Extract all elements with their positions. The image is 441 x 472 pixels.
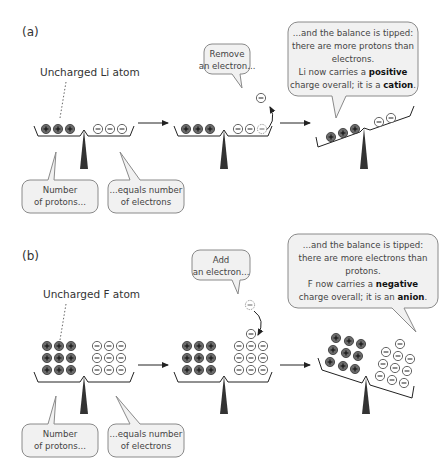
svg-text:of electrons: of electrons [121, 441, 172, 451]
f-atom-label: Uncharged F atom [43, 288, 140, 300]
tipped-scale-anion [318, 333, 415, 414]
svg-text:Remove: Remove [210, 49, 245, 59]
panel-a-label: (a) [22, 25, 39, 39]
svg-text:protons.: protons. [345, 266, 380, 276]
svg-text:F now carries a negative: F now carries a negative [308, 279, 418, 289]
scale-electron-added [174, 329, 272, 414]
ion-formation-diagram: (a) Uncharged Li atom Number of protons.… [0, 0, 441, 472]
svg-text:Li now carries a positive: Li now carries a positive [299, 67, 408, 77]
panel-b: (b) Uncharged F atom Number of protons..… [22, 234, 438, 457]
svg-text:there are more electrons than: there are more electrons than [299, 253, 428, 263]
svg-text:Number: Number [43, 185, 78, 195]
svg-text:...equals number: ...equals number [110, 429, 183, 439]
svg-text:...and the balance is tipped:: ...and the balance is tipped: [293, 28, 413, 38]
scale-electron-removed [174, 124, 272, 169]
svg-text:an electron...: an electron... [199, 61, 256, 71]
svg-text:of electrons: of electrons [121, 197, 172, 207]
panel-b-label: (b) [22, 249, 39, 263]
bubble-equals-electrons: ...equals number of electrons [108, 152, 184, 213]
svg-text:charge overall; it is an anion: charge overall; it is an anion. [299, 292, 427, 302]
panel-a: (a) Uncharged Li atom Number of protons.… [22, 22, 418, 213]
bubble-add-electron: Add an electron... [192, 250, 250, 294]
svg-text:electrons.: electrons. [332, 54, 374, 64]
balanced-scale-li [34, 124, 134, 169]
bubble-cation-result: ...and the balance is tipped: there are … [288, 22, 418, 118]
svg-text:Add: Add [213, 255, 230, 265]
bubble-remove-electron: Remove an electron... [199, 44, 256, 88]
svg-text:of protons...: of protons... [34, 197, 86, 207]
svg-text:there are more protons than: there are more protons than [292, 41, 414, 51]
svg-text:...equals number: ...equals number [110, 185, 183, 195]
svg-text:...and the balance is tipped:: ...and the balance is tipped: [303, 240, 423, 250]
leader-line [60, 82, 66, 118]
li-atom-label: Uncharged Li atom [40, 66, 140, 78]
bubble-equals-electrons-b: ...equals number of electrons [108, 396, 184, 457]
fulcrum [80, 130, 88, 169]
svg-text:an electron...: an electron... [193, 267, 250, 277]
svg-text:charge overall; it is a cation: charge overall; it is a cation. [290, 80, 416, 90]
bubble-anion-result: ...and the balance is tipped: there are … [288, 234, 438, 332]
svg-text:Number: Number [43, 429, 78, 439]
svg-text:of protons...: of protons... [34, 441, 86, 451]
tipped-scale-cation [316, 106, 414, 169]
